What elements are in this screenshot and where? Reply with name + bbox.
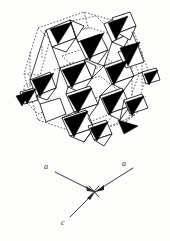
- axis-label-a-left: a: [44, 163, 48, 171]
- crystal-structure-figure: a a c: [0, 0, 170, 241]
- axis-label-a-right: a: [122, 160, 126, 168]
- axes-group: [55, 168, 133, 217]
- axis-a1-arrowhead: [86, 186, 95, 192]
- structure-drawing: [0, 0, 170, 241]
- axis-label-c: c: [61, 219, 65, 227]
